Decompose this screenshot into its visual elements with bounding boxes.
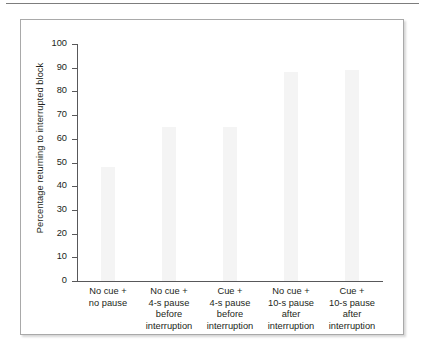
y-axis-tick xyxy=(72,210,78,211)
bar xyxy=(345,70,359,281)
bar-chart-plot-area: Percentage returning to interrupted bloc… xyxy=(21,20,405,336)
top-horizontal-rule xyxy=(6,3,419,4)
x-axis-line xyxy=(77,281,383,282)
y-axis-tick xyxy=(72,163,78,164)
bar xyxy=(223,127,237,281)
y-axis-tick xyxy=(72,115,78,116)
y-axis-tick-label: 60 xyxy=(37,134,67,143)
x-axis-category-label-line: 10-s pause xyxy=(315,298,389,310)
y-axis-tick xyxy=(72,44,78,45)
bar xyxy=(284,72,298,281)
x-axis-category-label-line: Cue + xyxy=(315,286,389,298)
y-axis-tick xyxy=(72,257,78,258)
bar xyxy=(101,167,115,281)
y-axis-tick-label: 0 xyxy=(37,276,67,285)
y-axis-tick-label: 10 xyxy=(37,252,67,261)
bar xyxy=(162,127,176,281)
x-axis-category-label: Cue +10-s pauseafterinterruption xyxy=(315,286,389,332)
y-axis-tick xyxy=(72,281,78,282)
y-axis-tick-label: 90 xyxy=(37,63,67,72)
y-axis-tick xyxy=(72,234,78,235)
y-axis-tick-label: 30 xyxy=(37,205,67,214)
x-axis-category-label-line: after xyxy=(315,309,389,321)
y-axis-tick-label: 70 xyxy=(37,110,67,119)
y-axis-tick-label: 20 xyxy=(37,229,67,238)
y-axis-tick-label: 100 xyxy=(37,39,67,48)
y-axis-tick xyxy=(72,186,78,187)
y-axis-tick-label: 80 xyxy=(37,86,67,95)
y-axis-tick-label: 50 xyxy=(37,158,67,167)
figure-frame: Percentage returning to interrupted bloc… xyxy=(20,19,404,335)
y-axis-tick-label: 40 xyxy=(37,181,67,190)
x-axis-category-label-line: interruption xyxy=(315,321,389,333)
y-axis-tick xyxy=(72,68,78,69)
y-axis-tick xyxy=(72,139,78,140)
y-axis-tick xyxy=(72,91,78,92)
